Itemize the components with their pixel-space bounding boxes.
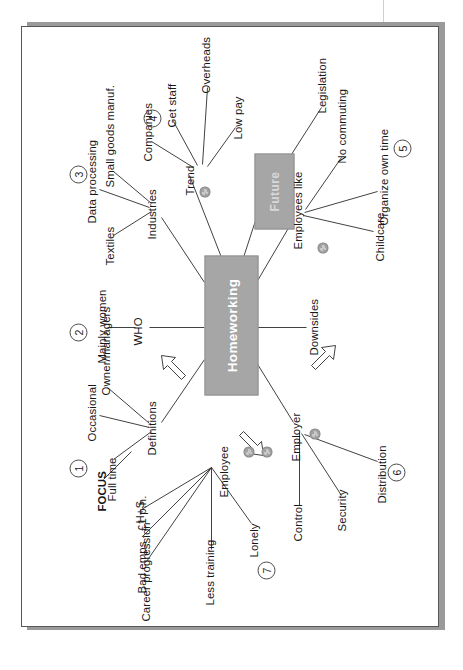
branch-number-1: 1 [69, 459, 87, 477]
leaf-control[interactable]: Control [291, 504, 303, 541]
node-employees-like[interactable]: Employees like [291, 171, 303, 249]
marker-dot-employer [309, 428, 320, 439]
leaf-less-training[interactable]: Less training [203, 539, 215, 605]
leaf-small-goods-manuf[interactable]: Small goods manuf. [103, 85, 115, 187]
node-who[interactable]: WHO [131, 317, 143, 345]
branch-number-7: 7 [257, 561, 275, 579]
screenshot-root: Homeworking Future Definitions WHO Indus… [0, 0, 463, 670]
branch-number-4: 4 [143, 109, 161, 127]
node-future[interactable]: Future [254, 153, 294, 229]
leaf-organize-own-time[interactable]: Organize own time [377, 128, 389, 225]
marker-dot-employees-like [317, 242, 328, 253]
branch-number-2: 2 [69, 323, 87, 341]
leaf-textiles[interactable]: Textiles [103, 226, 115, 265]
leaf-no-commuting[interactable]: No commuting [335, 88, 347, 163]
leaf-hs[interactable]: H+S [133, 500, 145, 523]
leaf-low-pay[interactable]: Low pay [231, 96, 243, 139]
node-definitions[interactable]: Definitions [145, 401, 157, 455]
leaf-data-processing[interactable]: Data processing [85, 139, 97, 223]
mind-map-canvas: Homeworking Future Definitions WHO Indus… [21, 26, 439, 627]
leaf-security[interactable]: Security [335, 489, 347, 531]
marker-dot-employee-a [243, 446, 254, 457]
leaf-lonely[interactable]: Lonely [247, 523, 259, 557]
node-future-label: Future [267, 171, 281, 211]
leaf-downsides[interactable]: Downsides [307, 298, 319, 355]
node-trend[interactable]: Trend [183, 165, 195, 195]
leaf-overheads[interactable]: Overheads [199, 36, 211, 93]
marker-dot-trend [199, 186, 210, 197]
node-employer[interactable]: Employer [289, 412, 301, 461]
scan-artifact-line [383, 0, 384, 22]
branch-number-6: 6 [387, 463, 405, 481]
branch-number-5: 5 [393, 139, 411, 157]
branch-number-3: 3 [69, 165, 87, 183]
node-employee[interactable]: Employee [217, 446, 229, 497]
central-node-homeworking[interactable]: Homeworking [204, 255, 258, 395]
leaf-distribution[interactable]: Distribution [375, 445, 387, 503]
label-focus: FOCUS [95, 471, 107, 511]
leaf-get-staff[interactable]: Get staff [165, 83, 177, 127]
marker-dot-employee-b [261, 446, 272, 457]
leaf-legislation[interactable]: Legislation [315, 57, 327, 113]
leaf-mainly-women[interactable]: Mainly women [95, 289, 107, 363]
central-node-label: Homeworking [224, 278, 239, 372]
mind-map-rotated-layer: Homeworking Future Definitions WHO Indus… [21, 26, 439, 627]
node-industries[interactable]: Industries [145, 189, 157, 239]
leaf-occasional[interactable]: Occasional [85, 384, 97, 441]
